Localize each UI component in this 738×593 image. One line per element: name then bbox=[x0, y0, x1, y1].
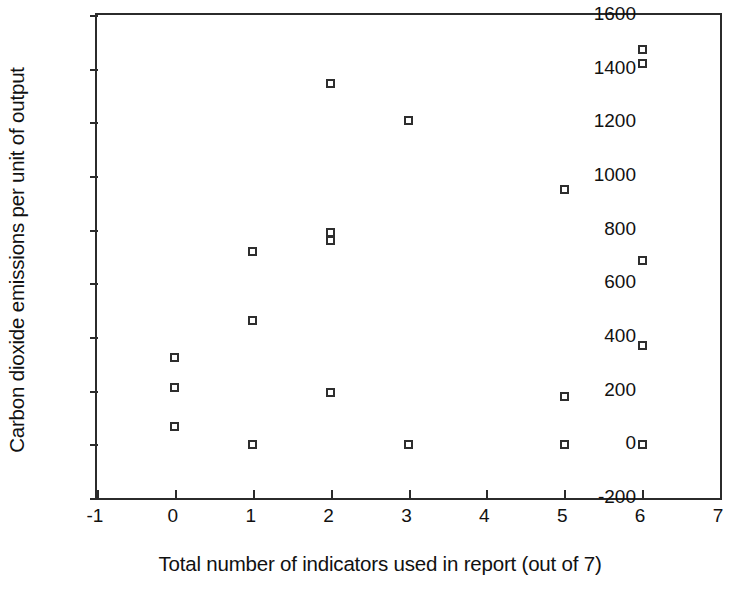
x-axis-tick-label: 3 bbox=[387, 506, 427, 525]
x-axis-tick-label: 0 bbox=[153, 506, 193, 525]
y-axis-title: Carbon dioxide emissions per unit of out… bbox=[0, 0, 34, 520]
data-point-marker bbox=[170, 383, 179, 392]
data-point-marker bbox=[326, 79, 335, 88]
x-axis-title: Total number of indicators used in repor… bbox=[60, 552, 700, 576]
y-axis-tick-label: 1400 bbox=[566, 58, 636, 77]
data-point-marker bbox=[170, 422, 179, 431]
y-axis-tick-label: 800 bbox=[566, 219, 636, 238]
y-axis-tick-label: 200 bbox=[566, 380, 636, 399]
x-axis-tick-label: 1 bbox=[231, 506, 271, 525]
x-axis-tick-label: 4 bbox=[464, 506, 504, 525]
data-point-layer bbox=[97, 15, 720, 498]
data-point-marker bbox=[248, 247, 257, 256]
data-point-marker bbox=[326, 388, 335, 397]
plot-area bbox=[95, 13, 722, 500]
x-axis-tick-label: 5 bbox=[542, 506, 582, 525]
y-axis-tick-label: 600 bbox=[566, 272, 636, 291]
data-point-marker bbox=[638, 256, 647, 265]
data-point-marker bbox=[638, 440, 647, 449]
y-axis-tick-label: 1600 bbox=[566, 4, 636, 23]
x-axis-tick-label: -1 bbox=[75, 506, 115, 525]
data-point-marker bbox=[638, 59, 647, 68]
x-axis-tick-label: 2 bbox=[309, 506, 349, 525]
x-axis-tick-label: 6 bbox=[620, 506, 660, 525]
data-point-marker bbox=[326, 236, 335, 245]
data-point-marker bbox=[560, 185, 569, 194]
data-point-marker bbox=[404, 116, 413, 125]
data-point-marker bbox=[638, 341, 647, 350]
y-axis-tick-label: 1200 bbox=[566, 111, 636, 130]
y-axis-tick-label: 400 bbox=[566, 326, 636, 345]
data-point-marker bbox=[248, 440, 257, 449]
y-axis-tick-label: 0 bbox=[566, 433, 636, 452]
scatter-chart-figure: Carbon dioxide emissions per unit of out… bbox=[0, 0, 738, 593]
x-axis-tick-label: 7 bbox=[698, 506, 738, 525]
data-point-marker bbox=[170, 353, 179, 362]
y-axis-tick-label: -200 bbox=[566, 487, 636, 506]
y-axis-tick-label: 1000 bbox=[566, 165, 636, 184]
x-axis-tick bbox=[720, 490, 722, 498]
data-point-marker bbox=[404, 440, 413, 449]
data-point-marker bbox=[248, 316, 257, 325]
data-point-marker bbox=[638, 45, 647, 54]
y-axis-tick bbox=[90, 498, 98, 500]
